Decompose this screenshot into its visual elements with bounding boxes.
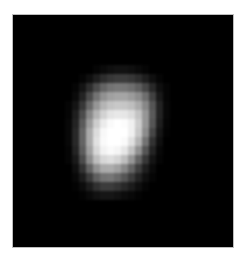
pixel-cell bbox=[72, 110, 79, 119]
pixel-cell bbox=[156, 74, 163, 83]
pixel-cell bbox=[142, 110, 149, 119]
pixel-cell bbox=[100, 155, 107, 164]
pixel-cell bbox=[72, 92, 79, 101]
pixel-cell bbox=[72, 155, 79, 164]
pixel-cell bbox=[107, 173, 114, 182]
pixel-cell bbox=[128, 182, 135, 191]
pixel-cell bbox=[65, 74, 72, 83]
pixel-cell bbox=[142, 92, 149, 101]
pixel-cell bbox=[163, 146, 170, 155]
pixel-cell bbox=[121, 191, 128, 200]
pixel-cell bbox=[142, 128, 149, 137]
pixel-cell bbox=[93, 155, 100, 164]
pixel-cell bbox=[93, 83, 100, 92]
pixel-cell bbox=[86, 128, 93, 137]
pixel-cell bbox=[100, 92, 107, 101]
pixel-cell bbox=[121, 92, 128, 101]
pixel-cell bbox=[135, 146, 142, 155]
pixel-cell bbox=[170, 155, 177, 164]
pixel-cell bbox=[65, 92, 72, 101]
pixel-cell bbox=[156, 137, 163, 146]
pixel-cell bbox=[65, 182, 72, 191]
pixel-cell bbox=[100, 65, 107, 74]
pixel-cell bbox=[100, 164, 107, 173]
pixel-cell bbox=[163, 92, 170, 101]
pixel-cell bbox=[121, 119, 128, 128]
pixel-cell bbox=[107, 74, 114, 83]
pixel-cell bbox=[79, 101, 86, 110]
pixel-cell bbox=[156, 164, 163, 173]
pixel-cell bbox=[170, 92, 177, 101]
pixel-cell bbox=[100, 182, 107, 191]
pixel-cell bbox=[114, 146, 121, 155]
pixel-cell bbox=[72, 164, 79, 173]
pixel-cell bbox=[72, 65, 79, 74]
pixel-cell bbox=[163, 74, 170, 83]
pixel-cell bbox=[114, 128, 121, 137]
pixel-cell bbox=[128, 65, 135, 74]
pixel-cell bbox=[93, 65, 100, 74]
pixel-cell bbox=[86, 110, 93, 119]
pixel-cell bbox=[156, 110, 163, 119]
pixel-cell bbox=[65, 101, 72, 110]
pixel-cell bbox=[163, 101, 170, 110]
pixel-cell bbox=[163, 164, 170, 173]
pixel-cell bbox=[100, 101, 107, 110]
pixel-cell bbox=[128, 74, 135, 83]
pixel-cell bbox=[149, 146, 156, 155]
pixel-cell bbox=[100, 110, 107, 119]
pixel-cell bbox=[114, 83, 121, 92]
pixel-cell bbox=[107, 119, 114, 128]
pixel-cell bbox=[170, 173, 177, 182]
pixel-cell bbox=[149, 92, 156, 101]
pixel-cell bbox=[142, 191, 149, 200]
pixel-cell bbox=[114, 173, 121, 182]
pixel-cell bbox=[135, 137, 142, 146]
pixel-cell bbox=[149, 101, 156, 110]
pixel-cell bbox=[107, 92, 114, 101]
pixel-cell bbox=[86, 173, 93, 182]
pixel-cell bbox=[149, 191, 156, 200]
pixel-cell bbox=[72, 137, 79, 146]
pixel-cell bbox=[156, 65, 163, 74]
pixel-cell bbox=[79, 83, 86, 92]
pixel-cell bbox=[149, 173, 156, 182]
pixel-cell bbox=[128, 83, 135, 92]
pixel-cell bbox=[170, 110, 177, 119]
pixel-cell bbox=[114, 101, 121, 110]
pixel-cell bbox=[128, 155, 135, 164]
pixel-cell bbox=[100, 173, 107, 182]
pixel-cell bbox=[156, 128, 163, 137]
pixel-cell bbox=[163, 137, 170, 146]
pixel-cell bbox=[128, 137, 135, 146]
pixel-cell bbox=[170, 182, 177, 191]
pixel-cell bbox=[170, 101, 177, 110]
pixel-cell bbox=[86, 164, 93, 173]
pixel-cell bbox=[93, 92, 100, 101]
pixel-cell bbox=[128, 92, 135, 101]
pixel-cell bbox=[72, 74, 79, 83]
pixel-cell bbox=[128, 101, 135, 110]
pixel-cell bbox=[121, 164, 128, 173]
pixel-cell bbox=[121, 137, 128, 146]
pixel-cell bbox=[142, 65, 149, 74]
pixel-cell bbox=[135, 119, 142, 128]
pixel-cell bbox=[86, 74, 93, 83]
pixel-cell bbox=[72, 182, 79, 191]
pixel-cell bbox=[128, 119, 135, 128]
pixel-cell bbox=[114, 164, 121, 173]
pixel-cell bbox=[107, 101, 114, 110]
pixel-cell bbox=[114, 74, 121, 83]
pixel-cell bbox=[128, 191, 135, 200]
pixel-cell bbox=[121, 155, 128, 164]
pixel-cell bbox=[100, 128, 107, 137]
pixel-cell bbox=[156, 155, 163, 164]
pixel-cell bbox=[65, 173, 72, 182]
pixel-cell bbox=[135, 110, 142, 119]
pixel-cell bbox=[79, 92, 86, 101]
pixel-cell bbox=[86, 182, 93, 191]
pixel-cell bbox=[163, 182, 170, 191]
pixel-cell bbox=[170, 65, 177, 74]
pixel-cell bbox=[149, 155, 156, 164]
pixel-cell bbox=[107, 128, 114, 137]
